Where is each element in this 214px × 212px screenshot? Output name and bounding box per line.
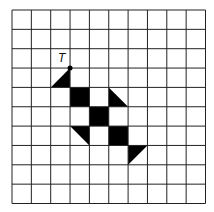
filled-triangle: [128, 145, 147, 164]
point-label-t: T: [58, 51, 65, 65]
filled-triangle: [70, 126, 89, 145]
filled-square: [109, 126, 128, 145]
filled-square: [70, 87, 89, 106]
grid-diagram: [0, 0, 214, 212]
filled-triangle: [51, 68, 70, 87]
filled-triangle: [109, 87, 128, 106]
filled-square: [89, 107, 108, 126]
point-t-dot: [68, 66, 73, 71]
